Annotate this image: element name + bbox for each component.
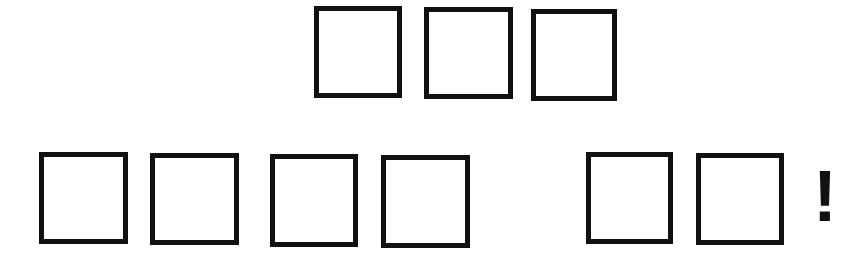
letter-box[interactable] (381, 155, 470, 248)
letter-box[interactable] (270, 154, 358, 247)
letter-box[interactable] (696, 153, 784, 245)
letter-box[interactable] (150, 153, 239, 245)
letter-box[interactable] (39, 152, 128, 244)
letter-box[interactable] (531, 9, 617, 101)
letter-box[interactable] (314, 6, 402, 98)
letter-box[interactable] (586, 152, 673, 244)
letter-box[interactable] (424, 7, 513, 99)
exclamation-mark: ! (813, 160, 837, 232)
